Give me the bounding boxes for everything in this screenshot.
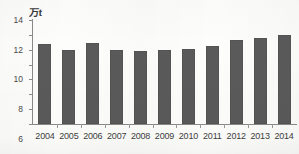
bar — [86, 43, 99, 124]
x-tick-label: 2009 — [153, 131, 177, 141]
x-tick-mark — [81, 124, 82, 128]
bar — [230, 40, 243, 124]
y-tick-mark: 4 — [29, 94, 33, 95]
y-tick-label: 12 — [14, 46, 23, 54]
bar — [206, 46, 219, 124]
x-axis-labels: 2004200520062007200820092010201120122013… — [33, 131, 296, 145]
x-tick-mark — [129, 124, 130, 128]
x-tick-mark — [57, 124, 58, 128]
x-tick-label: 2004 — [33, 131, 57, 141]
x-tick-label: 2013 — [248, 131, 272, 141]
y-tick-label: 10 — [14, 75, 23, 83]
y-tick-label: 14 — [14, 16, 23, 24]
bar — [158, 50, 171, 124]
bar — [182, 49, 195, 124]
x-tick-label: 2008 — [129, 131, 153, 141]
bar — [110, 50, 123, 124]
x-tick-mark — [105, 124, 106, 128]
x-tick-label: 2014 — [272, 131, 296, 141]
y-tick-mark: 10 — [29, 50, 33, 51]
y-tick-mark: 12 — [29, 35, 33, 36]
bar — [38, 44, 51, 124]
y-tick-mark: 2 — [29, 109, 33, 110]
y-tick-label: 6 — [18, 135, 23, 143]
y-tick-mark: 8 — [29, 65, 33, 66]
x-tick-mark — [153, 124, 154, 128]
x-tick-mark — [200, 124, 201, 128]
y-axis-unit-label: 万t — [29, 7, 42, 18]
y-tick-mark: 0 — [29, 124, 33, 125]
x-tick-label: 2010 — [176, 131, 200, 141]
x-tick-label: 2006 — [81, 131, 105, 141]
x-tick-label: 2012 — [224, 131, 248, 141]
y-tick-mark: 14 — [29, 20, 33, 21]
y-tick-mark: 6 — [29, 79, 33, 80]
bar — [254, 38, 267, 124]
plot-area: 02468101214 — [33, 20, 296, 124]
x-tick-label: 2007 — [105, 131, 129, 141]
x-tick-label: 2011 — [200, 131, 224, 141]
x-tick-mark — [224, 124, 225, 128]
x-tick-mark — [176, 124, 177, 128]
x-tick-mark — [248, 124, 249, 128]
bar — [62, 50, 75, 124]
bar — [134, 51, 147, 124]
x-tick-label: 2005 — [57, 131, 81, 141]
y-tick-label: 8 — [18, 105, 23, 113]
x-axis-line — [32, 124, 297, 125]
bar — [278, 35, 291, 124]
x-tick-mark — [272, 124, 273, 128]
bar-chart: 万t 02468101214 2004200520062007200820092… — [0, 0, 299, 154]
